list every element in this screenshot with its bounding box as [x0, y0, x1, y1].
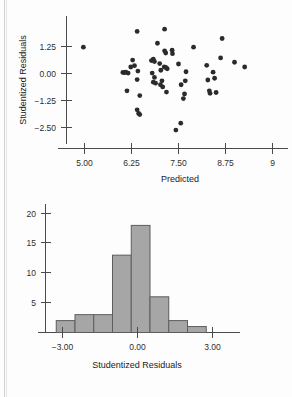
scatter-point	[135, 77, 140, 82]
residual-vs-predicted-chart: 1.25 0.00 −1.25 −2.50 5.00 6.25 7.50 8.7…	[0, 0, 292, 190]
scatter-point	[183, 78, 188, 83]
histogram-bar	[56, 321, 75, 333]
scatter-point	[220, 36, 225, 41]
scatter-point	[214, 90, 219, 95]
scatter-point	[152, 59, 157, 64]
hist-yticklabel: 15	[27, 238, 37, 248]
scatter-point	[176, 62, 181, 67]
scatter-point	[191, 45, 196, 50]
scatter-xticklabel: 5.00	[76, 158, 93, 168]
scatter-point	[126, 71, 131, 76]
scatter-point	[157, 61, 162, 66]
histogram-bar	[94, 315, 113, 333]
scatter-point	[81, 45, 86, 50]
scatter-point	[150, 71, 155, 76]
scatter-x-axis-title: Predicted	[161, 174, 199, 184]
scatter-point	[160, 84, 165, 89]
scatter-point	[137, 112, 142, 117]
hist-x-axis-title: Studentized Residuals	[92, 360, 182, 370]
hist-y-ticklabels: 20 15 10 5	[27, 209, 37, 308]
hist-yticklabel: 10	[27, 268, 37, 278]
scatter-point	[173, 128, 178, 133]
scatter-point	[182, 92, 187, 97]
scatter-point	[135, 29, 140, 34]
hist-yticklabel: 20	[27, 209, 37, 219]
scatter-point	[165, 66, 170, 71]
figure-page: 1.25 0.00 −1.25 −2.50 5.00 6.25 7.50 8.7…	[0, 0, 292, 397]
scatter-point	[179, 82, 184, 87]
scatter-point	[132, 63, 137, 68]
histogram-bar	[75, 315, 94, 333]
scatter-yticklabel: 0.00	[39, 69, 56, 79]
scatter-svg: 1.25 0.00 −1.25 −2.50 5.00 6.25 7.50 8.7…	[0, 0, 292, 190]
scatter-point	[164, 90, 169, 95]
histogram-bar	[188, 327, 207, 333]
scatter-yticklabel: 1.25	[39, 42, 56, 52]
scatter-point	[232, 60, 237, 65]
scatter-point	[163, 51, 168, 56]
scatter-point-group	[81, 27, 247, 133]
scatter-point	[205, 78, 210, 83]
scatter-xticklabel: 6.25	[123, 158, 140, 168]
scatter-point	[125, 88, 130, 93]
studentized-residuals-histogram-chart: 20 15 10 5 −3.00 0.00 3.00 Studentized R…	[0, 190, 292, 397]
scatter-y-axis-title: Studentized Residuals	[18, 35, 28, 125]
scatter-yticklabel: −2.50	[34, 123, 56, 133]
histogram-bar	[113, 255, 132, 332]
scatter-point	[130, 58, 135, 63]
scatter-yticklabel: −1.25	[34, 96, 56, 106]
histogram-bar	[131, 225, 150, 332]
scatter-point	[170, 48, 175, 53]
scatter-point	[135, 69, 140, 74]
scatter-point	[152, 75, 157, 80]
histogram-bar-group	[56, 225, 206, 332]
scatter-point	[242, 65, 247, 70]
hist-xticklabel: −3.00	[52, 342, 74, 352]
scatter-point	[212, 76, 217, 81]
scatter-xticklabel: 7.50	[170, 158, 187, 168]
scatter-point	[211, 70, 216, 75]
scatter-point	[178, 121, 183, 126]
hist-xticklabel: 0.00	[129, 342, 146, 352]
scatter-point	[184, 69, 189, 74]
histogram-svg: 20 15 10 5 −3.00 0.00 3.00 Studentized R…	[0, 190, 292, 397]
scatter-point	[162, 27, 167, 32]
scatter-xticklabel: 8.75	[217, 158, 234, 168]
scatter-point	[208, 91, 213, 96]
scatter-point	[218, 56, 223, 61]
hist-x-ticklabels: −3.00 0.00 3.00	[52, 342, 221, 352]
scatter-point	[181, 96, 186, 101]
scatter-x-ticklabels: 5.00 6.25 7.50 8.75 9	[76, 158, 275, 168]
scatter-point	[137, 93, 142, 98]
histogram-bar	[150, 297, 169, 333]
scatter-point	[204, 63, 209, 68]
scatter-point	[153, 81, 158, 86]
scatter-xticklabel: 9	[270, 158, 275, 168]
scatter-point	[155, 41, 160, 46]
hist-xticklabel: 3.00	[204, 342, 221, 352]
hist-yticklabel: 5	[31, 298, 36, 308]
histogram-bar	[169, 321, 188, 333]
scatter-y-ticklabels: 1.25 0.00 −1.25 −2.50	[34, 42, 56, 133]
